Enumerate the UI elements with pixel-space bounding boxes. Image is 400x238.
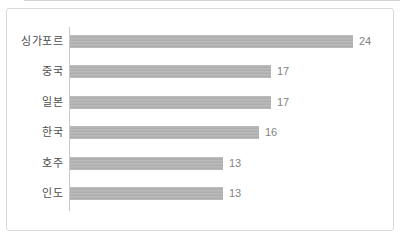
top-divider-line — [24, 0, 400, 1]
bar — [70, 187, 223, 200]
value-label: 24 — [359, 35, 371, 48]
value-label: 16 — [265, 126, 277, 139]
bar-row: 일본17 — [7, 96, 393, 109]
category-label: 일본 — [42, 96, 63, 109]
value-label: 17 — [277, 96, 289, 109]
value-label: 13 — [229, 187, 241, 200]
value-label: 17 — [277, 65, 289, 78]
bar — [70, 65, 271, 78]
bar — [70, 35, 353, 48]
value-label: 13 — [229, 157, 241, 170]
plot-area: 싱가포르24중국17일본17한국16호주13인도13 — [7, 9, 393, 230]
bar-row: 인도13 — [7, 187, 393, 200]
bar-row: 한국16 — [7, 126, 393, 139]
page-background: 싱가포르24중국17일본17한국16호주13인도13 — [0, 0, 400, 238]
y-axis-line — [69, 27, 70, 211]
bar — [70, 96, 271, 109]
bar-row: 중국17 — [7, 65, 393, 78]
bar-row: 싱가포르24 — [7, 35, 393, 48]
bar — [70, 126, 259, 139]
category-label: 중국 — [42, 65, 63, 78]
bar — [70, 157, 223, 170]
category-label: 한국 — [42, 126, 63, 139]
category-label: 호주 — [42, 157, 63, 170]
bar-chart-card: 싱가포르24중국17일본17한국16호주13인도13 — [6, 8, 394, 231]
category-label: 싱가포르 — [21, 35, 63, 48]
category-label: 인도 — [42, 187, 63, 200]
bar-row: 호주13 — [7, 157, 393, 170]
